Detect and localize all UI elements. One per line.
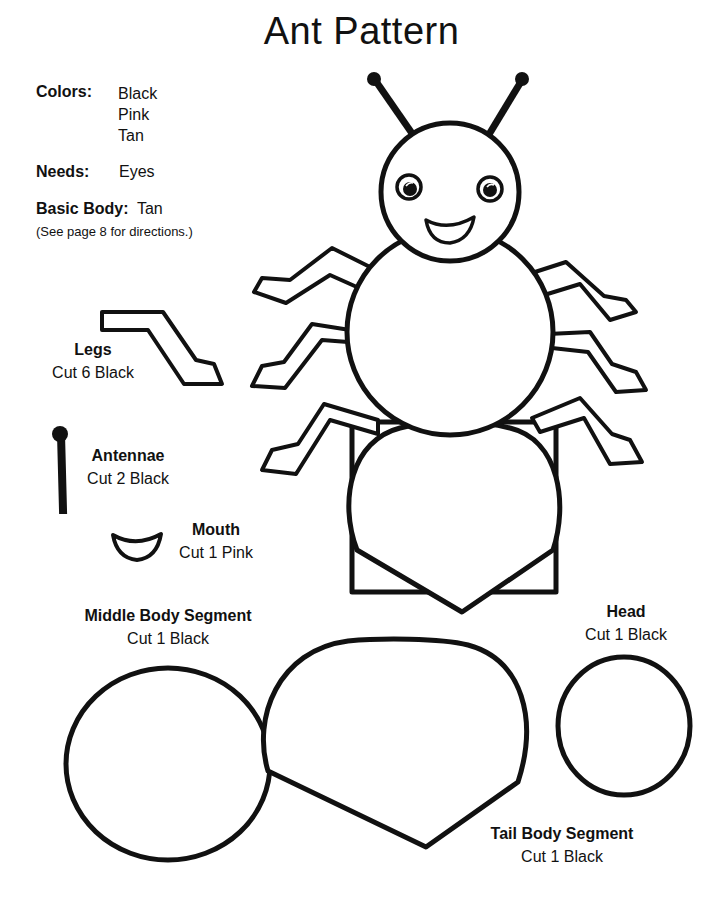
color-item: Black (118, 83, 157, 104)
ant-leg-left-middle (252, 324, 350, 388)
head-name: Head (566, 603, 686, 621)
basic-body-note: (See page 8 for directions.) (36, 224, 193, 239)
tail-body-name: Tail Body Segment (472, 825, 652, 843)
tail-body-instruction: Cut 1 Black (472, 848, 652, 866)
tail-body-segment-shape (263, 639, 526, 847)
head-label: Head Cut 1 Black (566, 603, 686, 644)
mouth-cutout-shape (113, 534, 161, 560)
legs-name: Legs (30, 341, 156, 359)
assembled-ant-illustration (252, 72, 646, 612)
antennae-label: Antennae Cut 2 Black (72, 447, 184, 488)
legs-instruction: Cut 6 Black (30, 364, 156, 382)
antennae-instruction: Cut 2 Black (72, 470, 184, 488)
needs-value: Eyes (119, 163, 155, 181)
middle-body-segment-shape (66, 668, 270, 860)
head-segment-shape (558, 657, 690, 795)
page-title: Ant Pattern (0, 10, 723, 53)
mouth-instruction: Cut 1 Pink (166, 544, 266, 562)
middle-body-instruction: Cut 1 Black (60, 630, 276, 648)
middle-body-label: Middle Body Segment Cut 1 Black (60, 607, 276, 648)
color-item: Tan (118, 125, 157, 146)
tail-body-label: Tail Body Segment Cut 1 Black (472, 825, 652, 866)
basic-body-line: Basic Body: Tan (36, 200, 163, 218)
head-instruction: Cut 1 Black (566, 626, 686, 644)
colors-label: Colors: (36, 83, 92, 101)
colors-list: Black Pink Tan (118, 83, 157, 146)
antenna-cutout-shape (52, 426, 68, 510)
legs-label: Legs Cut 6 Black (30, 341, 156, 382)
color-item: Pink (118, 104, 157, 125)
mouth-label: Mouth Cut 1 Pink (166, 521, 266, 562)
mouth-name: Mouth (166, 521, 266, 539)
basic-body-value: Tan (137, 200, 163, 217)
middle-body-name: Middle Body Segment (60, 607, 276, 625)
basic-body-label: Basic Body: (36, 200, 128, 217)
needs-label: Needs: (36, 163, 89, 181)
antennae-name: Antennae (72, 447, 184, 465)
ant-leg-right-middle (548, 332, 646, 392)
